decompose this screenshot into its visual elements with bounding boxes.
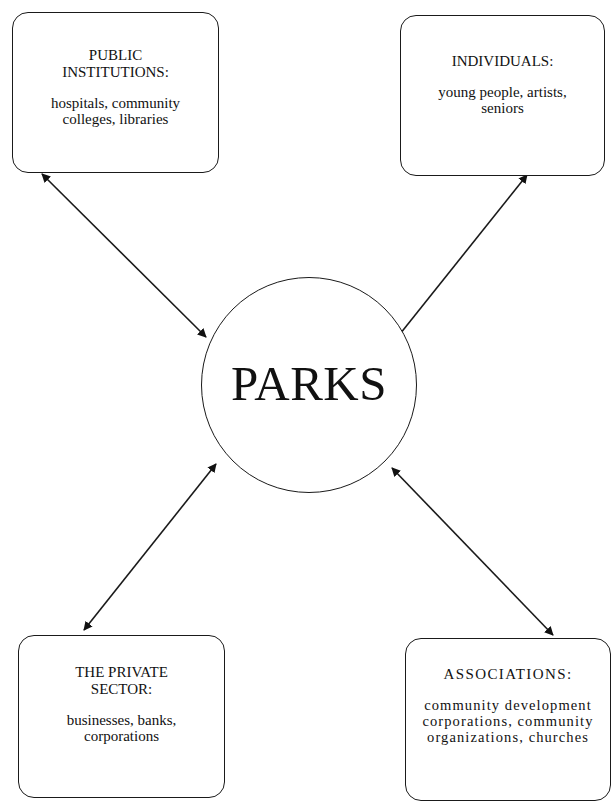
node-description-line: hospitals, community: [19, 95, 212, 111]
node-title-line: THE PRIVATE: [25, 664, 218, 681]
hub-label: PARKS: [231, 359, 387, 408]
arrow-private-to-parks: [84, 464, 216, 630]
node-public-institutions: PUBLIC INSTITUTIONS: hospitals, communit…: [12, 12, 219, 173]
node-description-line: corporations: [25, 728, 218, 744]
node-title-line: SECTOR:: [25, 681, 218, 698]
node-description-line: colleges, libraries: [19, 111, 212, 127]
node-description: young people, artists, seniors: [407, 84, 598, 116]
node-description-line: seniors: [407, 100, 598, 116]
node-description-line: organizations, churches: [408, 729, 608, 745]
node-description-line: businesses, banks,: [25, 712, 218, 728]
node-associations: ASSOCIATIONS: community development corp…: [405, 638, 611, 801]
node-title-line: INDIVIDUALS:: [407, 53, 598, 70]
node-description: hospitals, community colleges, libraries: [19, 95, 212, 127]
node-description-line: community development: [408, 697, 608, 713]
arrow-individuals-to-parks: [396, 175, 527, 339]
node-description-line: young people, artists,: [407, 84, 598, 100]
node-individuals: INDIVIDUALS: young people, artists, seni…: [400, 15, 605, 176]
diagram-canvas: PUBLIC INSTITUTIONS: hospitals, communit…: [0, 0, 616, 811]
hub-parks-circle: PARKS: [201, 277, 417, 493]
node-description: businesses, banks, corporations: [25, 712, 218, 744]
node-description: community development corporations, comm…: [408, 697, 608, 745]
node-title-line: INSTITUTIONS:: [19, 64, 212, 81]
node-private-sector: THE PRIVATE SECTOR: businesses, banks, c…: [18, 635, 225, 798]
arrow-public-to-parks: [42, 174, 206, 337]
node-title-line: ASSOCIATIONS:: [408, 666, 608, 683]
node-description-line: corporations, community: [408, 713, 608, 729]
node-title-line: PUBLIC: [19, 47, 212, 64]
arrow-associations-to-parks: [392, 468, 553, 635]
